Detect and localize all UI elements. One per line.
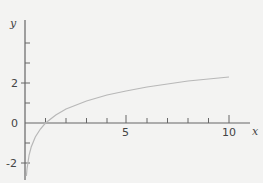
x-tick-label-10: 10 [222,126,236,139]
y-axis-label: y [9,17,17,30]
x-tick-label-5: 5 [122,126,129,139]
x-axis-label: x [252,125,259,138]
y-tick-label-neg2: -2 [6,157,17,170]
y-tick-label-2: 2 [11,77,18,90]
y-tick-label-0: 0 [11,117,18,130]
chart: y 2 0 -2 5 10 x [0,0,263,183]
x-ticks [46,115,230,123]
